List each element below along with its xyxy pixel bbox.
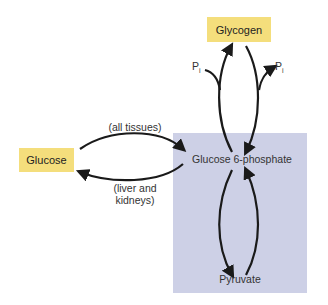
liver-kidneys-line1: (liver and xyxy=(100,182,170,194)
pi-right-label: Pi xyxy=(275,60,284,77)
glucose-6-phosphatase-arrow xyxy=(80,164,183,180)
glycogen-label: Glycogen xyxy=(216,24,262,36)
gluconeogenesis-arrow xyxy=(246,170,258,275)
glycolysis-arrow xyxy=(219,170,232,275)
hexokinase-arrow xyxy=(80,133,183,149)
liver-kidneys-line2: kidneys) xyxy=(100,194,170,206)
g6p-label: Glucose 6-phosphate xyxy=(182,153,302,165)
pi-right-branch xyxy=(259,67,274,90)
pi-left-branch xyxy=(205,70,220,90)
all-tissues-label: (all tissues) xyxy=(95,121,175,133)
glycogenolysis-arrow xyxy=(246,46,258,152)
pyruvate-label: Pyruvate xyxy=(210,273,270,285)
glucose-label: Glucose xyxy=(26,154,66,166)
liver-kidneys-label: (liver and kidneys) xyxy=(100,182,170,206)
glycogenesis-arrow xyxy=(219,46,232,152)
glucose-node: Glucose xyxy=(19,148,74,172)
glycogen-node: Glycogen xyxy=(207,17,271,42)
pi-left-label: Pi xyxy=(192,60,201,77)
